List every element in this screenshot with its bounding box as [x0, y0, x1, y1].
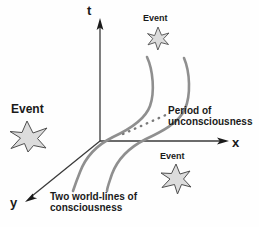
event-label-bottom: Event [160, 152, 185, 162]
event-star-top [148, 27, 170, 50]
period-of-unconsciousness-label: Period of unconsciousness [168, 106, 252, 128]
y-axis-arrowhead [25, 194, 37, 202]
spacetime-diagram-figure: t x y Event Event Event Period of uncons… [0, 0, 259, 227]
event-star-bottom [161, 164, 191, 194]
x-axis-label: x [232, 136, 239, 150]
worldlines-caption: Two world-lines of consciousness [50, 192, 137, 214]
star-shape [161, 164, 191, 194]
event-star-left [10, 121, 47, 152]
caption-line-2: consciousness [50, 203, 137, 214]
event-label-top: Event [143, 14, 168, 24]
period-line-2: unconsciousness [168, 117, 252, 128]
y-axis-label: y [10, 196, 17, 210]
star-shape [10, 121, 47, 152]
star-shape [148, 27, 170, 50]
y-axis-line [32, 141, 100, 196]
t-axis-label: t [87, 4, 91, 18]
event-label-left: Event [11, 103, 44, 116]
